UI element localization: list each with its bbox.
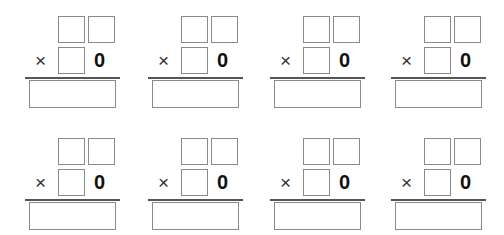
multiplier-ones-digit: 0: [460, 171, 471, 193]
problem-2: × 0: [148, 16, 248, 112]
answer-box[interactable]: [395, 80, 482, 108]
answer-box[interactable]: [29, 202, 116, 230]
multiplier-ones-digit: 0: [94, 49, 105, 71]
multiplier-ones-digit: 0: [339, 171, 350, 193]
result-line: [148, 77, 243, 79]
problem-4: × 0: [391, 16, 491, 112]
multiplicand-tens-box[interactable]: [303, 16, 330, 43]
multiplicand-tens-box[interactable]: [181, 16, 208, 43]
multiplicand-ones-box[interactable]: [211, 138, 238, 165]
times-sign: ×: [401, 172, 412, 194]
multiplicand-ones-box[interactable]: [88, 16, 115, 43]
times-sign: ×: [280, 172, 291, 194]
answer-box[interactable]: [29, 80, 116, 108]
result-line: [148, 199, 243, 201]
result-line: [270, 77, 365, 79]
multiplicand-ones-box[interactable]: [88, 138, 115, 165]
multiplicand-tens-box[interactable]: [58, 16, 85, 43]
problem-5: × 0: [25, 138, 125, 234]
multiplicand-ones-box[interactable]: [454, 16, 481, 43]
answer-box[interactable]: [395, 202, 482, 230]
multiplier-tens-box[interactable]: [181, 47, 208, 74]
problem-8: × 0: [391, 138, 491, 234]
multiplicand-tens-box[interactable]: [424, 138, 451, 165]
multiplier-ones-digit: 0: [339, 49, 350, 71]
problem-6: × 0: [148, 138, 248, 234]
multiplier-tens-box[interactable]: [424, 47, 451, 74]
result-line: [25, 77, 120, 79]
multiplier-ones-digit: 0: [460, 49, 471, 71]
result-line: [391, 77, 486, 79]
multiplier-ones-digit: 0: [217, 49, 228, 71]
result-line: [270, 199, 365, 201]
times-sign: ×: [35, 172, 46, 194]
multiplicand-tens-box[interactable]: [303, 138, 330, 165]
result-line: [25, 199, 120, 201]
times-sign: ×: [158, 172, 169, 194]
multiplier-tens-box[interactable]: [424, 169, 451, 196]
multiplier-tens-box[interactable]: [58, 47, 85, 74]
result-line: [391, 199, 486, 201]
problem-1: × 0: [25, 16, 125, 112]
answer-box[interactable]: [152, 80, 239, 108]
multiplier-tens-box[interactable]: [303, 169, 330, 196]
answer-box[interactable]: [152, 202, 239, 230]
multiplicand-tens-box[interactable]: [424, 16, 451, 43]
multiplicand-tens-box[interactable]: [58, 138, 85, 165]
times-sign: ×: [401, 50, 412, 72]
multiplier-tens-box[interactable]: [58, 169, 85, 196]
times-sign: ×: [280, 50, 291, 72]
multiplicand-tens-box[interactable]: [181, 138, 208, 165]
problem-3: × 0: [270, 16, 370, 112]
problem-7: × 0: [270, 138, 370, 234]
answer-box[interactable]: [274, 80, 361, 108]
multiplicand-ones-box[interactable]: [211, 16, 238, 43]
multiplier-ones-digit: 0: [94, 171, 105, 193]
multiplier-tens-box[interactable]: [181, 169, 208, 196]
multiplier-ones-digit: 0: [217, 171, 228, 193]
times-sign: ×: [35, 50, 46, 72]
answer-box[interactable]: [274, 202, 361, 230]
times-sign: ×: [158, 50, 169, 72]
multiplicand-ones-box[interactable]: [333, 16, 360, 43]
multiplicand-ones-box[interactable]: [454, 138, 481, 165]
multiplicand-ones-box[interactable]: [333, 138, 360, 165]
multiplier-tens-box[interactable]: [303, 47, 330, 74]
